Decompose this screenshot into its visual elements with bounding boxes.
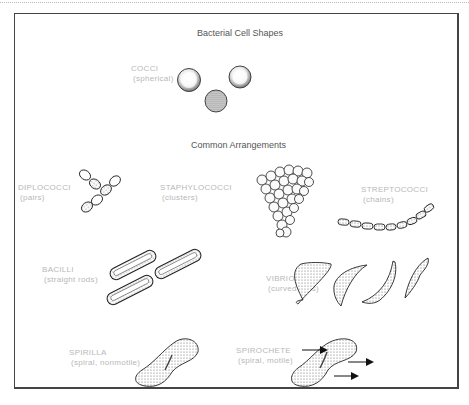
- diplococci-illustration: [78, 168, 123, 214]
- spirochete-illustration: [292, 339, 373, 387]
- bacteria-illustration: [0, 0, 469, 405]
- spirilla-illustration: [136, 339, 199, 387]
- staphylococci-illustration: [257, 165, 314, 237]
- bacilli-illustration: [105, 247, 203, 306]
- streptococci-illustration: [338, 203, 435, 231]
- vibrios-illustration: [295, 258, 429, 306]
- cocci-illustration: [178, 66, 252, 112]
